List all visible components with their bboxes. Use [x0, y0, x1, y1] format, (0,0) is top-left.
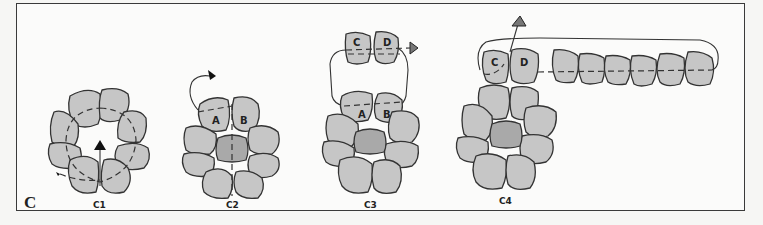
stage-c2: A B C2: [182, 70, 279, 210]
stage-label-c1: C1: [93, 200, 106, 210]
diagram-canvas: C1 A B C2: [0, 0, 763, 225]
cell-label-c: C: [353, 37, 360, 48]
cell-label-b: B: [240, 115, 248, 126]
stage-c4: C D C4: [456, 16, 718, 206]
cell-label-a-c3: A: [358, 109, 366, 120]
cell-label-d: D: [383, 37, 391, 48]
panel-label: C: [24, 193, 36, 212]
cell-label-c-c4: C: [491, 57, 498, 68]
stage-c1: C1: [48, 89, 149, 210]
stage-label-c4: C4: [499, 196, 512, 206]
cell-label-b-c3: B: [383, 109, 391, 120]
diagram-figure: C1 A B C2: [0, 0, 763, 225]
stage-c3: C D A B C3: [322, 32, 419, 210]
cell-label-a: A: [212, 115, 220, 126]
cell-label-d-c4: D: [520, 57, 528, 68]
stage-label-c3: C3: [364, 200, 377, 210]
stage-label-c2: C2: [226, 200, 239, 210]
